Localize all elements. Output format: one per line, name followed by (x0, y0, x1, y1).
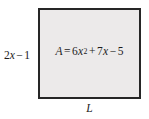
width-variable: L (86, 103, 92, 115)
linear-variable: x (103, 46, 108, 58)
height-dimension-label: 2x−1 (4, 48, 36, 64)
equals-sign: = (64, 46, 71, 58)
area-symbol: A (55, 46, 62, 58)
quadratic-variable: x (78, 46, 83, 58)
geometry-figure: A=6x2+7x−5 2x−1 L (0, 0, 149, 119)
width-dimension-label: L (38, 101, 141, 117)
second-operator: − (110, 46, 117, 58)
first-operator: + (89, 46, 96, 58)
height-constant: 1 (24, 50, 30, 62)
height-variable: x (10, 50, 15, 62)
constant-term: 5 (118, 46, 124, 58)
area-formula-label: A=6x2+7x−5 (38, 8, 141, 99)
height-operator: − (16, 50, 23, 62)
